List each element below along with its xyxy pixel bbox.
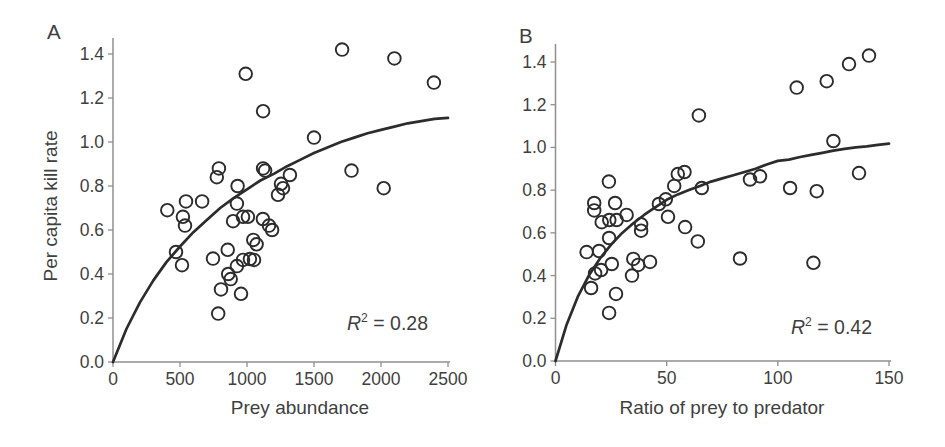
y-tick-label: 1.2 xyxy=(522,95,546,115)
r-symbol: R xyxy=(791,316,805,338)
data-point xyxy=(662,211,675,224)
panel-b-letter: B xyxy=(519,24,533,48)
data-point xyxy=(180,195,193,208)
y-tick-label: 0.4 xyxy=(522,266,547,286)
y-tick-label: 0.2 xyxy=(522,308,546,328)
x-tick-label: 500 xyxy=(165,369,194,389)
data-point xyxy=(221,244,234,257)
r-value: = 0.42 xyxy=(812,316,872,338)
data-point xyxy=(215,283,228,296)
x-tick-label: 1000 xyxy=(228,369,267,389)
y-tick-label: 1.0 xyxy=(522,137,547,157)
data-point xyxy=(388,52,401,65)
data-point xyxy=(679,221,692,234)
data-point xyxy=(603,175,616,188)
panel-b-r-squared-annotation: R2 = 0.42 xyxy=(791,315,872,339)
data-point xyxy=(692,235,705,248)
y-tick-label: 0.6 xyxy=(522,223,546,243)
data-point xyxy=(603,307,616,320)
data-point xyxy=(588,197,601,210)
data-point xyxy=(790,81,803,94)
y-tick-label: 0.8 xyxy=(80,176,104,196)
data-point xyxy=(211,171,224,184)
data-point xyxy=(212,307,225,320)
y-tick-label: 1.4 xyxy=(80,44,105,64)
y-tick-label: 0.2 xyxy=(80,308,104,328)
data-point xyxy=(588,204,601,217)
panel-a-chart: 050010001500200025000.00.20.40.60.81.01.… xyxy=(0,0,472,447)
data-point xyxy=(235,288,248,301)
data-point xyxy=(610,214,623,227)
data-point xyxy=(734,252,747,265)
data-point xyxy=(693,109,706,122)
data-point xyxy=(231,180,244,193)
data-point xyxy=(161,204,174,217)
panel-b-chart: 0501001500.00.20.40.60.81.01.21.4 xyxy=(473,0,945,447)
data-point xyxy=(196,195,209,208)
y-tick-label: 0.0 xyxy=(522,351,547,371)
data-point xyxy=(257,105,270,118)
data-point xyxy=(863,49,876,62)
data-point xyxy=(595,216,608,229)
data-point xyxy=(176,259,189,272)
r-exponent: 2 xyxy=(805,315,812,329)
data-point xyxy=(609,197,622,210)
x-tick-label: 2000 xyxy=(362,369,401,389)
data-point xyxy=(603,214,616,227)
data-point xyxy=(336,43,349,56)
data-point xyxy=(784,182,797,195)
x-tick-label: 0 xyxy=(108,369,118,389)
panel-b-x-axis-title: Ratio of prey to predator xyxy=(572,397,872,419)
y-tick-label: 0.4 xyxy=(80,264,105,284)
data-point xyxy=(308,131,321,144)
data-point xyxy=(810,185,823,198)
data-point xyxy=(177,211,190,224)
data-point xyxy=(207,252,220,265)
x-tick-label: 2500 xyxy=(429,369,468,389)
x-tick-label: 0 xyxy=(551,368,561,388)
data-point xyxy=(820,75,833,88)
data-point xyxy=(827,135,840,148)
data-point xyxy=(610,288,623,301)
x-tick-label: 1500 xyxy=(295,369,334,389)
data-point xyxy=(345,164,358,177)
y-tick-label: 1.2 xyxy=(80,88,104,108)
data-point xyxy=(626,269,639,282)
panel-a-x-axis-title: Prey abundance xyxy=(150,397,450,419)
r-symbol: R xyxy=(347,312,361,334)
data-point xyxy=(644,256,657,269)
data-point xyxy=(603,232,616,245)
data-point xyxy=(239,68,252,81)
y-tick-label: 0.6 xyxy=(80,220,104,240)
x-tick-label: 150 xyxy=(874,368,903,388)
data-point xyxy=(377,182,390,195)
y-tick-label: 0.8 xyxy=(522,180,546,200)
r-value: = 0.28 xyxy=(368,312,428,334)
data-point xyxy=(179,219,192,232)
data-point xyxy=(843,58,856,71)
data-point xyxy=(580,246,593,259)
y-tick-label: 1.4 xyxy=(522,52,547,72)
data-point xyxy=(668,180,681,193)
x-tick-label: 100 xyxy=(763,368,792,388)
panel-a-y-axis-title: Per capita kill rate xyxy=(40,130,62,281)
data-point xyxy=(807,257,820,270)
y-tick-label: 0.0 xyxy=(80,352,105,372)
x-tick-label: 50 xyxy=(657,368,677,388)
panel-a-r-squared-annotation: R2 = 0.28 xyxy=(347,311,428,335)
r-exponent: 2 xyxy=(361,311,368,325)
panel-a-letter: A xyxy=(47,20,61,44)
y-tick-label: 1.0 xyxy=(80,132,105,152)
two-panel-scatter-figure: 050010001500200025000.00.20.40.60.81.01.… xyxy=(0,0,945,447)
data-point xyxy=(853,167,866,180)
data-point xyxy=(585,282,598,295)
data-point xyxy=(593,245,606,258)
data-point xyxy=(213,162,226,175)
data-point xyxy=(428,76,441,89)
data-point xyxy=(231,197,244,210)
